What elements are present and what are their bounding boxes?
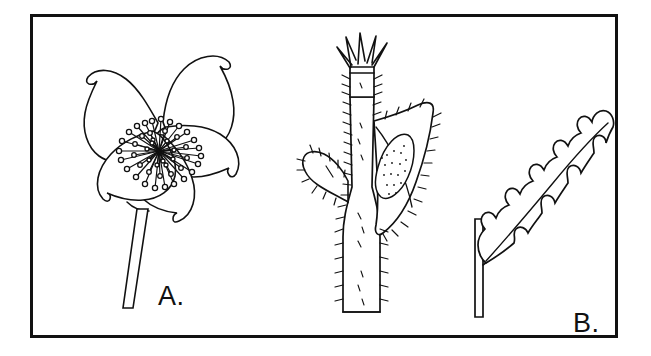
leaf-blade: [478, 111, 614, 263]
sepal-tips: [337, 33, 387, 68]
stem-drawing: [288, 27, 458, 327]
figure-page: A.: [0, 0, 651, 356]
panel-a-flower: A.: [53, 27, 283, 327]
figure-frame: A.: [30, 14, 618, 338]
panel-a-label: A.: [158, 283, 185, 310]
panel-b-stem: B.: [288, 27, 458, 327]
leaf-drawing: [458, 27, 618, 327]
bud-tube: [350, 67, 374, 97]
panel-c-leaf: C.: [458, 27, 618, 327]
pedicel: [123, 209, 148, 308]
